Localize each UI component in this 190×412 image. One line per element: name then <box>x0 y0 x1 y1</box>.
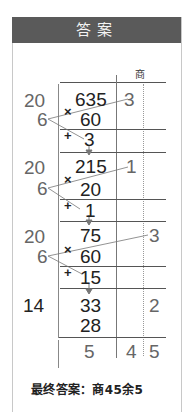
step3-add-sign: + <box>64 265 72 280</box>
step3-multiplier: 6 <box>37 247 48 266</box>
step3-multiply-sign: × <box>64 242 72 257</box>
quotient-ones: 5 <box>149 342 160 361</box>
step4-product: 28 <box>80 316 101 335</box>
step4-divisor: 14 <box>23 296 44 315</box>
step3-quotient-digit: 3 <box>149 226 160 245</box>
step4-quotient-digit: 2 <box>149 296 160 315</box>
step2-divisor: 20 <box>24 158 45 177</box>
step2-quotient-digit: 1 <box>126 157 137 176</box>
step2-multiplier: 6 <box>37 179 48 198</box>
step4-dividend: 33 <box>80 296 101 315</box>
step1-multiplier: 6 <box>37 110 48 129</box>
final-remainder: 5 <box>84 342 95 361</box>
step1-quotient-digit: 3 <box>124 90 135 109</box>
step3-remainder: 15 <box>80 268 101 287</box>
step1-divisor: 20 <box>24 91 45 110</box>
step1-add-sign: + <box>64 128 72 143</box>
step3-product: 60 <box>80 247 101 266</box>
step3-divisor: 20 <box>24 227 45 246</box>
step1-product: 60 <box>80 110 101 129</box>
final-answer: 最终答案：商45余5 <box>31 380 143 397</box>
quotient-tens: 4 <box>126 342 137 361</box>
step3-dividend: 75 <box>80 226 101 245</box>
step2-product: 20 <box>80 180 101 199</box>
step2-add-sign: + <box>64 198 72 213</box>
step1-dividend: 635 <box>75 90 107 109</box>
step2-remainder: 1 <box>85 201 96 220</box>
step1-remainder: 3 <box>84 130 95 149</box>
step2-dividend: 215 <box>75 157 107 176</box>
step2-multiply-sign: × <box>64 172 72 187</box>
step1-multiply-sign: × <box>64 104 72 119</box>
